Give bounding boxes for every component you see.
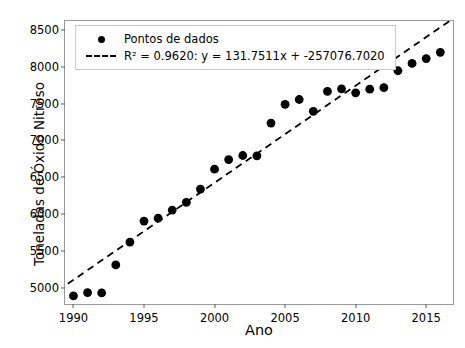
chart-legend: Pontos de dados R² = 0.9620: y = 131.751… (75, 25, 396, 70)
y-axis-tick-mark (61, 177, 65, 178)
y-axis-tick-label: 6500 (30, 170, 59, 184)
data-point (210, 165, 219, 174)
x-axis-tick-label: 1990 (59, 311, 88, 325)
x-axis-tick-mark (144, 304, 145, 308)
x-axis-tick-label: 2015 (412, 311, 441, 325)
data-point (140, 217, 149, 226)
x-axis-tick-mark (285, 304, 286, 308)
data-point (351, 88, 360, 97)
x-axis-tick-mark (214, 304, 215, 308)
x-axis-tick-mark (73, 304, 74, 308)
y-axis-tick-label: 7000 (30, 133, 59, 147)
data-point (379, 83, 388, 92)
y-axis-tick-mark (61, 103, 65, 104)
y-axis-tick-label: 7500 (30, 97, 59, 111)
data-point (267, 119, 276, 128)
data-point (111, 261, 120, 270)
y-axis-tick-mark (61, 29, 65, 30)
y-axis-tick-mark (61, 287, 65, 288)
x-axis-tick-mark (426, 304, 427, 308)
legend-label-trendline: R² = 0.9620: y = 131.7511x + -257076.702… (118, 48, 385, 65)
plot-area: Pontos de dados R² = 0.9620: y = 131.751… (64, 20, 454, 305)
x-axis-tick-label: 1995 (129, 311, 158, 325)
y-axis-tick-mark (61, 140, 65, 141)
data-point (422, 54, 431, 63)
y-axis-tick-mark (61, 66, 65, 67)
scatter-chart-figure: Toneladas de Óxido Nitroso Ano Pontos de… (0, 0, 465, 348)
dashed-line-icon (84, 55, 118, 57)
data-point (281, 100, 290, 109)
data-point (323, 87, 332, 96)
data-point (252, 151, 261, 160)
x-axis-tick-mark (355, 304, 356, 308)
scatter-marker-icon (84, 36, 118, 43)
data-point (295, 95, 304, 104)
data-point (69, 291, 78, 300)
y-axis-tick-label: 8000 (30, 60, 59, 74)
x-axis-tick-label: 2005 (270, 311, 299, 325)
data-point (196, 185, 205, 194)
data-point (365, 85, 374, 94)
legend-label-points: Pontos de dados (118, 31, 219, 48)
data-point (408, 59, 417, 68)
data-point (126, 238, 135, 247)
data-point (337, 84, 346, 93)
data-point (309, 107, 318, 116)
data-point (154, 214, 163, 223)
data-point (238, 151, 247, 160)
y-axis-tick-mark (61, 214, 65, 215)
legend-item-points: Pontos de dados (84, 31, 385, 48)
y-axis-tick-label: 5000 (30, 281, 59, 295)
y-axis-tick-label: 6000 (30, 207, 59, 221)
y-axis-tick-mark (61, 250, 65, 251)
data-point (97, 289, 106, 298)
data-point (436, 48, 445, 57)
y-axis-tick-label: 5500 (30, 244, 59, 258)
x-axis-tick-label: 2000 (200, 311, 229, 325)
data-point (224, 155, 233, 164)
y-axis-tick-label: 8500 (30, 23, 59, 37)
x-axis-title: Ano (64, 322, 454, 338)
data-point (182, 198, 191, 207)
x-axis-tick-label: 2010 (341, 311, 370, 325)
legend-item-trendline: R² = 0.9620: y = 131.7511x + -257076.702… (84, 48, 385, 65)
data-point (168, 206, 177, 215)
data-point (83, 288, 92, 297)
